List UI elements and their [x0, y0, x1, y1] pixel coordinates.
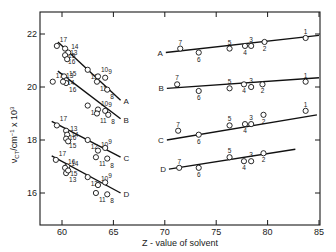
svg-text:νCT/cm−1 x 103: νCT/cm−1 x 103 [9, 106, 20, 163]
x-tick-label: 60 [57, 227, 67, 237]
series-labels: ABCDABCD [124, 49, 167, 199]
point-label: 2 [262, 118, 266, 125]
data-point [196, 50, 201, 55]
point-label: 14 [71, 160, 79, 167]
data-point [54, 43, 59, 48]
data-point [105, 156, 110, 161]
data-point [227, 46, 232, 51]
data-point [261, 151, 266, 156]
point-label: 8 [110, 162, 114, 169]
x-axis-label: Z - value of solvent [142, 238, 219, 248]
data-point [242, 43, 247, 48]
point-label: 8 [110, 93, 114, 100]
data-point [227, 123, 232, 128]
series-label-A: A [157, 49, 163, 58]
point-label: 3 [249, 36, 253, 43]
point-label: 7 [177, 158, 181, 165]
x-tick-label: 80 [263, 227, 273, 237]
data-point [196, 132, 201, 137]
point-label: 13 [70, 49, 78, 56]
point-label: 4 [242, 87, 246, 94]
point-label: 5 [228, 115, 232, 122]
data-point [177, 165, 182, 170]
data-point [178, 46, 183, 51]
point-label: 17 [60, 115, 68, 122]
data-point [249, 84, 254, 89]
x-tick-labels: 606570758085 [57, 227, 324, 237]
point-label: 4 [243, 127, 247, 134]
data-point [105, 192, 110, 197]
data-point [60, 79, 65, 84]
point-label: 1 [304, 101, 308, 108]
point-label: 5 [228, 147, 232, 154]
data-point [85, 175, 90, 180]
y-tick-labels: 22201816 [27, 29, 37, 198]
data-point [249, 159, 254, 164]
regression-line-D [169, 149, 295, 169]
point-label: 7 [175, 74, 179, 81]
y-tick-label: 16 [27, 188, 37, 198]
point-label: 9 [108, 101, 112, 108]
data-point [93, 155, 98, 160]
point-label: 5 [228, 39, 232, 46]
point-label: 17 [60, 36, 68, 43]
point-label: 9 [108, 172, 112, 179]
point-label: 3 [249, 77, 253, 84]
y-axis-label: νCT/cm−1 x 103 [9, 106, 20, 163]
y-tick-label: 20 [27, 82, 37, 92]
point-label: 11 [99, 160, 106, 167]
data-point [261, 112, 266, 117]
point-label: 7 [178, 39, 182, 46]
point-label: 1 [304, 72, 308, 79]
point-label: 3 [249, 151, 253, 158]
series-label-A: A [124, 97, 130, 106]
data-point [103, 145, 108, 150]
point-label: 13 [69, 176, 77, 183]
series-label-B: B [124, 116, 129, 125]
data-point [241, 159, 246, 164]
data-point [95, 148, 100, 153]
data-point [303, 108, 308, 113]
data-point [241, 82, 246, 87]
data-point [175, 82, 180, 87]
data-point [66, 139, 71, 144]
point-label: 11 [99, 196, 106, 203]
data-point [176, 128, 181, 133]
data-point [105, 87, 110, 92]
data-point [260, 82, 265, 87]
chart: 606570758085 22201816 Z - value of solve… [0, 0, 336, 252]
data-point [227, 86, 232, 91]
point-label: 2 [262, 156, 266, 163]
point-label: 9 [108, 138, 112, 145]
data-point [95, 182, 100, 187]
series-label-D: D [124, 190, 130, 199]
data-point [262, 39, 267, 44]
series-label-C: C [124, 154, 130, 163]
point-label: 8 [110, 197, 114, 204]
series-label-D: D [160, 165, 166, 174]
point-label: 4 [243, 49, 247, 56]
x-tick-label: 65 [108, 227, 118, 237]
point-label: 14 [71, 131, 79, 138]
y-tick-label: 22 [27, 29, 37, 39]
data-point [106, 112, 111, 117]
point-label: 16 [69, 86, 77, 93]
data-point [93, 190, 98, 195]
series-label-C: C [158, 136, 164, 145]
point-label: 11 [100, 117, 107, 124]
data-point [242, 122, 247, 127]
data-point [95, 74, 100, 79]
x-tick-label: 75 [211, 227, 221, 237]
data-point [249, 43, 254, 48]
point-label: 1 [304, 28, 308, 35]
data-point [85, 103, 90, 108]
data-point [66, 168, 71, 173]
point-label: 6 [197, 171, 201, 178]
data-point [94, 79, 99, 84]
point-label: 17 [59, 150, 67, 157]
point-label: 2 [261, 87, 265, 94]
data-point [85, 67, 90, 72]
point-label: 6 [197, 138, 201, 145]
point-label: 2 [263, 45, 267, 52]
x-tick-label: 70 [160, 227, 170, 237]
